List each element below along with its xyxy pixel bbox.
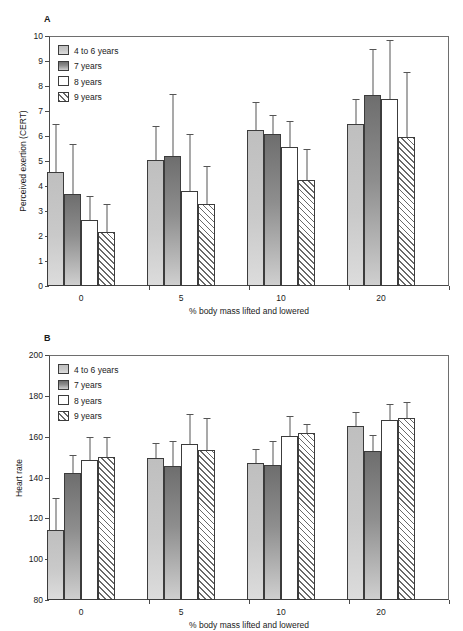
error-bar [81,437,98,460]
bar [181,444,198,600]
error-bar-cap [52,498,59,499]
error-bar-line [372,435,373,451]
y-axis-tick-label: 140 [29,473,43,482]
error-bar-cap [86,196,93,197]
error-bar-line [389,40,390,99]
error-bar-line [406,402,407,418]
error-bar-line [372,49,373,95]
y-axis-tick-label: 10 [34,32,43,41]
y-axis-tick-mark [45,396,49,397]
error-bar-line [255,449,256,463]
legend-swatch-icon [58,411,69,421]
legend-swatch-icon [58,76,69,86]
x-axis-tick-mark [249,286,250,290]
error-bar-line [155,443,156,458]
legend-swatch-icon [58,61,69,71]
x-axis-tick-mark [249,600,250,604]
x-axis-tick-mark [349,286,350,290]
error-bar [398,72,415,137]
bar [264,134,281,287]
error-bar-line [106,204,107,233]
y-axis-tick-label: 1 [38,257,43,266]
error-bar-cap [69,455,76,456]
error-bar-line [306,424,307,432]
error-bar-cap [69,144,76,145]
error-bar [381,404,398,420]
error-bar-line [355,412,356,426]
y-axis-tick-label: 4 [38,182,43,191]
error-bar [81,196,98,220]
error-bar-cap [403,402,410,403]
error-bar-cap [369,49,376,50]
error-bar-line [106,437,107,457]
error-bar-cap [103,204,110,205]
error-bar-line [155,126,156,160]
error-bar [147,443,164,458]
error-bar-line [206,166,207,204]
error-bar [281,416,298,435]
bar [198,450,215,600]
y-axis-tick-label: 9 [38,57,43,66]
y-axis-title: Heart rate [14,459,24,497]
bar [398,418,415,600]
error-bar-line [289,121,290,147]
error-bar [247,449,264,463]
y-axis-tick-mark [45,478,49,479]
y-axis-tick-mark [45,111,49,112]
error-bar-line [89,196,90,220]
y-axis-title: Perceived exertion (CERT) [18,110,28,211]
error-bar-line [355,99,356,124]
error-bar-cap [286,416,293,417]
error-bar-line [89,437,90,460]
x-axis-tick-label: 5 [179,294,184,303]
error-bar [364,435,381,451]
error-bar [198,166,215,204]
error-bar [398,402,415,418]
error-bar-line [389,404,390,420]
error-bar [47,124,64,173]
bar [81,460,98,600]
legend-swatch-icon [58,380,69,390]
x-axis-tick-label: 0 [79,294,84,303]
x-axis-tick-label: 5 [179,608,184,617]
y-axis-tick-mark [45,355,49,356]
error-bar-cap [203,166,210,167]
bar [147,160,164,286]
error-bar [347,412,364,426]
error-bar-line [72,144,73,195]
y-axis-tick-label: 5 [38,157,43,166]
x-axis-tick-label: 10 [276,294,285,303]
bar [64,473,81,600]
error-bar-cap [252,102,259,103]
error-bar [98,437,115,457]
panel-b: B80100120140160180200Heart rate051020% b… [0,320,463,631]
y-axis-tick-mark [45,61,49,62]
error-bar-cap [252,449,259,450]
legend-swatch-icon [58,45,69,55]
error-bar-cap [169,441,176,442]
y-axis-tick-mark [45,600,49,601]
error-bar-cap [303,149,310,150]
x-axis-tick-label: 20 [376,294,385,303]
error-bar-line [172,441,173,467]
x-axis-tick-label: 0 [79,608,84,617]
x-axis-title: % body mass lifted and lowered [189,620,309,630]
error-bar-cap [186,414,193,415]
y-axis-tick-label: 0 [38,282,43,291]
error-bar [181,414,198,444]
error-bar-line [72,455,73,473]
bar [247,130,264,286]
error-bar-cap [303,424,310,425]
bar [347,124,364,287]
error-bar-cap [269,115,276,116]
bar [364,451,381,600]
error-bar-cap [152,443,159,444]
error-bar-cap [52,124,59,125]
y-axis-tick-label: 200 [29,351,43,360]
bar [398,137,415,286]
error-bar-cap [269,441,276,442]
error-bar [347,99,364,124]
bar [164,156,181,286]
legend-item-label: 7 years [74,380,102,390]
error-bar-cap [369,435,376,436]
